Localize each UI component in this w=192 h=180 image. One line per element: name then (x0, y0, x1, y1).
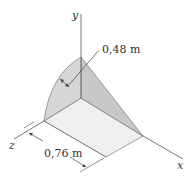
radius-label: 0,48 m (102, 44, 140, 55)
z-axis-line (14, 121, 44, 139)
diagram-canvas: y x z 0,48 m 0,76 m (0, 0, 192, 180)
x-axis-line (143, 136, 183, 159)
z-axis-label: z (9, 140, 15, 151)
length-label: 0,76 m (44, 148, 82, 159)
y-axis-label: y (72, 10, 78, 21)
quarter-cylinder-wedge-figure (0, 0, 192, 180)
x-axis-label: x (177, 160, 183, 171)
